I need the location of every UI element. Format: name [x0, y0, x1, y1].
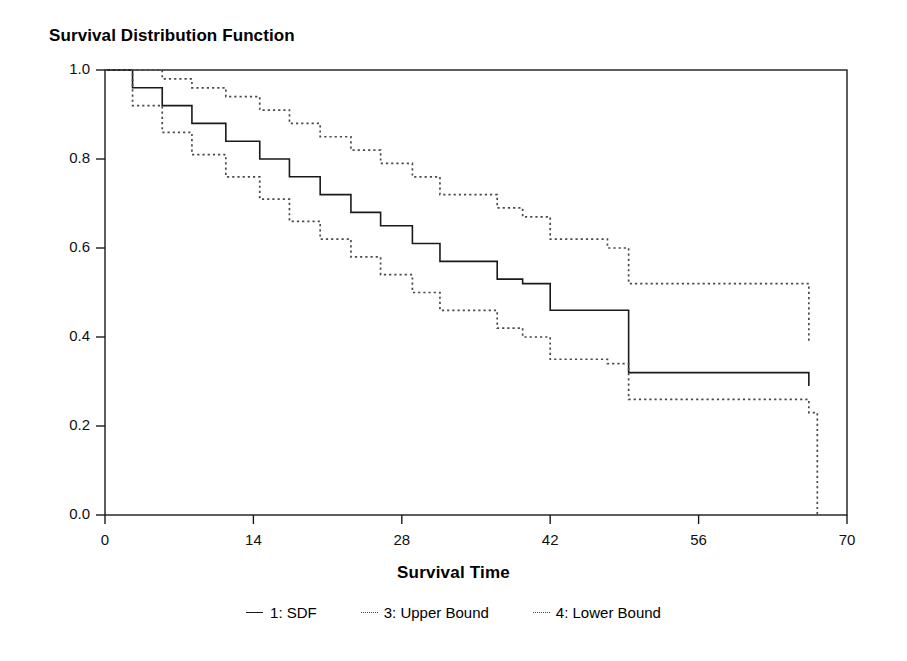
legend-label-sdf: 1: SDF — [270, 604, 317, 621]
legend-label-lower-bound: 4: Lower Bound — [556, 604, 661, 621]
x-tick-label: 70 — [824, 531, 870, 548]
y-tick-label: 0.8 — [44, 149, 90, 166]
y-tick-label: 0.2 — [44, 416, 90, 433]
x-axis-label: Survival Time — [0, 563, 907, 583]
x-tick-label: 28 — [379, 531, 425, 548]
x-tick-label: 56 — [676, 531, 722, 548]
dotted-line-swatch-icon — [533, 612, 550, 613]
y-tick-label: 0.0 — [44, 505, 90, 522]
legend-label-upper-bound: 3: Upper Bound — [384, 604, 489, 621]
plot-frame — [105, 70, 847, 515]
legend-entry-sdf: 1: SDF — [246, 604, 317, 621]
x-tick-label: 42 — [527, 531, 573, 548]
series-line — [105, 70, 817, 515]
plot-canvas — [0, 0, 907, 661]
dotted-line-swatch-icon — [361, 612, 378, 613]
y-tick-label: 1.0 — [44, 60, 90, 77]
survival-plot-figure: Survival Distribution Function Survival … — [0, 0, 907, 661]
chart-legend: 1: SDF 3: Upper Bound 4: Lower Bound — [0, 604, 907, 621]
y-tick-label: 0.6 — [44, 238, 90, 255]
solid-line-swatch-icon — [246, 612, 263, 613]
series-line — [105, 70, 809, 341]
legend-entry-lower-bound: 4: Lower Bound — [533, 604, 661, 621]
y-tick-label: 0.4 — [44, 327, 90, 344]
x-tick-label: 0 — [82, 531, 128, 548]
x-tick-label: 14 — [230, 531, 276, 548]
legend-entry-upper-bound: 3: Upper Bound — [361, 604, 489, 621]
series-line — [105, 70, 809, 386]
